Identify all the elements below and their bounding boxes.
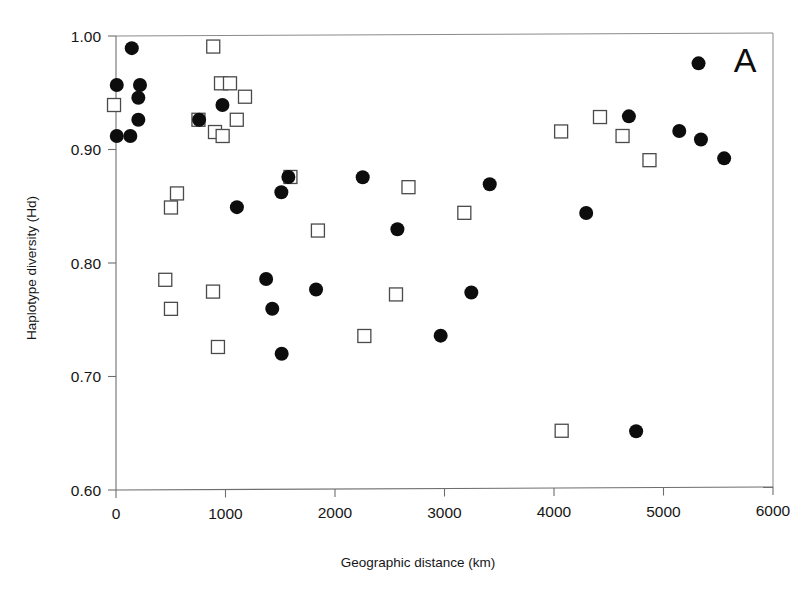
data-point-filled-circle xyxy=(390,222,404,236)
data-point-filled-circle xyxy=(274,185,288,199)
data-point-filled-circle xyxy=(694,133,708,147)
data-point-open-square xyxy=(402,181,415,194)
data-point-filled-circle xyxy=(230,200,244,214)
data-point-open-square xyxy=(207,285,220,298)
data-point-open-square xyxy=(223,77,236,90)
x-tick-label: 3000 xyxy=(427,504,462,521)
data-point-open-square xyxy=(238,90,251,103)
x-tick-label: 4000 xyxy=(537,503,572,520)
data-point-filled-circle xyxy=(717,151,731,165)
panel-letter: A xyxy=(734,41,757,79)
data-point-open-square xyxy=(216,129,229,142)
y-tick-label: 1.00 xyxy=(71,28,102,45)
data-point-filled-circle xyxy=(215,98,229,112)
plot-frame xyxy=(116,33,773,487)
x-tick-label: 1000 xyxy=(208,505,243,522)
data-point-open-square xyxy=(555,125,568,138)
data-point-filled-circle xyxy=(281,170,295,184)
data-point-filled-circle xyxy=(259,272,273,286)
series-filled-circles xyxy=(110,41,731,438)
data-point-open-square xyxy=(358,329,371,342)
scatter-plot: 0.600.700.800.901.00 0100020003000400050… xyxy=(0,0,808,598)
data-point-open-square xyxy=(616,129,629,142)
data-point-open-square xyxy=(389,288,402,301)
data-point-filled-circle xyxy=(131,113,145,127)
data-point-open-square xyxy=(311,224,324,237)
figure-panel-a: 0.600.700.800.901.00 0100020003000400050… xyxy=(0,0,808,598)
data-point-filled-circle xyxy=(110,129,124,143)
data-point-open-square xyxy=(164,302,177,315)
data-point-filled-circle xyxy=(125,41,139,55)
data-point-open-square xyxy=(555,424,568,437)
data-point-open-square xyxy=(170,187,183,200)
data-point-open-square xyxy=(643,154,656,167)
x-tick-label: 5000 xyxy=(646,503,681,520)
data-point-filled-circle xyxy=(692,56,706,70)
data-point-filled-circle xyxy=(192,113,206,127)
data-point-filled-circle xyxy=(434,329,448,343)
data-point-filled-circle xyxy=(464,286,478,300)
data-point-filled-circle xyxy=(356,170,370,184)
data-point-filled-circle xyxy=(265,302,279,316)
data-point-filled-circle xyxy=(622,109,636,123)
plot-axes xyxy=(116,36,773,490)
y-tick-label: 0.80 xyxy=(71,255,102,272)
data-point-filled-circle xyxy=(483,177,497,191)
data-point-open-square xyxy=(211,340,224,353)
data-point-filled-circle xyxy=(131,91,145,105)
data-point-open-square xyxy=(593,111,606,124)
x-axis-ticks: 0100020003000400050006000 xyxy=(112,487,791,522)
x-axis-title: Geographic distance (km) xyxy=(341,555,496,570)
data-point-open-square xyxy=(159,273,172,286)
data-point-filled-circle xyxy=(579,206,593,220)
x-tick-label: 0 xyxy=(112,505,121,522)
data-point-open-square xyxy=(458,206,471,219)
y-tick-label: 0.70 xyxy=(71,368,102,385)
y-tick-label: 0.60 xyxy=(71,482,102,499)
data-point-filled-circle xyxy=(110,78,124,92)
data-point-filled-circle xyxy=(275,347,289,361)
y-axis-title: Haplotype diversity (Hd) xyxy=(24,196,39,340)
data-point-filled-circle xyxy=(133,78,147,92)
x-tick-label: 6000 xyxy=(756,502,791,519)
y-tick-label: 0.90 xyxy=(71,141,102,158)
data-point-filled-circle xyxy=(123,129,137,143)
data-point-open-square xyxy=(164,201,177,214)
data-point-filled-circle xyxy=(672,124,686,138)
series-open-squares xyxy=(108,40,656,437)
data-point-open-square xyxy=(108,99,121,112)
frame-top xyxy=(116,33,773,36)
data-point-filled-circle xyxy=(629,424,643,438)
data-point-filled-circle xyxy=(309,283,323,297)
x-tick-label: 2000 xyxy=(318,504,353,521)
data-point-open-square xyxy=(230,113,243,126)
data-point-open-square xyxy=(207,40,220,53)
